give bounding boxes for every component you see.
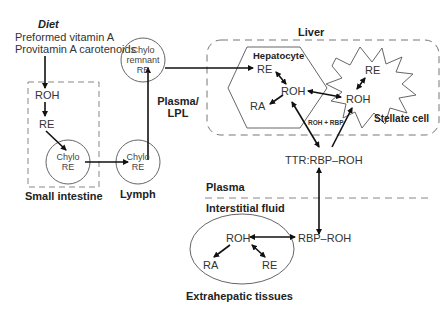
diet-title: Diet <box>38 18 59 30</box>
remnant-line2: remnant <box>123 55 163 65</box>
intestine-re: RE <box>39 118 54 130</box>
intestine-chylo: Chylo RE <box>53 152 83 172</box>
intestine-chylo-line2: RE <box>53 162 83 172</box>
stellate-cell-label: Stellate cell <box>374 113 429 125</box>
intestine-chylo-line1: Chylo <box>53 152 83 162</box>
extrahepatic-rbp-roh: RBP–ROH <box>298 232 351 244</box>
diet-preformed-vitamin-a: Preformed vitamin A <box>15 31 114 43</box>
remnant-line1: Chylo <box>123 45 163 55</box>
small-intestine-label: Small intestine <box>25 190 103 202</box>
extrahepatic-roh: ROH <box>226 232 250 244</box>
extrahepatic-re: RE <box>262 259 277 271</box>
roh-rbp-label: ROH + RBP <box>308 117 344 129</box>
plasma-lpl-line1: Plasma/ <box>155 95 201 107</box>
hepatocyte-label: Hepatocyte <box>253 50 304 62</box>
hepatocyte-roh: ROH <box>281 85 305 97</box>
extrahepatic-ra: RA <box>203 259 218 271</box>
liver-label: Liver <box>298 26 324 38</box>
diet-provitamin-a: Provitamin A carotenoids <box>15 43 136 55</box>
extrahepatic-tissues-label: Extrahepatic tissues <box>186 290 293 302</box>
arrow-hep-re-roh <box>276 72 286 84</box>
plasma-label: Plasma <box>206 181 245 193</box>
interstitial-fluid-label: Interstitial fluid <box>206 202 285 214</box>
intestine-roh: ROH <box>35 89 59 101</box>
stellate-re: RE <box>365 64 380 76</box>
remnant-line3: RE <box>123 65 163 75</box>
plasma-lpl-label: Plasma/ LPL <box>155 95 201 119</box>
lymph-label: Lymph <box>120 188 156 200</box>
arrow-stellate-re-roh <box>357 78 365 89</box>
lymph-chylo-line1: Chylo <box>123 152 153 162</box>
ttr-rbp-roh-label: TTR:RBP–ROH <box>285 154 363 166</box>
stellate-roh: ROH <box>346 93 370 105</box>
extrahepatic-ellipse <box>190 214 294 284</box>
plasma-lpl-line2: LPL <box>155 107 201 119</box>
arrow-extra-roh-ra <box>214 245 230 257</box>
lymph-chylo: Chylo RE <box>123 152 153 172</box>
hepatocyte-re: RE <box>257 63 272 75</box>
lymph-chylo-line2: RE <box>123 162 153 172</box>
chylo-remnant: Chylo remnant RE <box>123 45 163 75</box>
arrow-extra-roh-re <box>252 245 265 257</box>
hepatocyte-ra: RA <box>250 100 265 112</box>
